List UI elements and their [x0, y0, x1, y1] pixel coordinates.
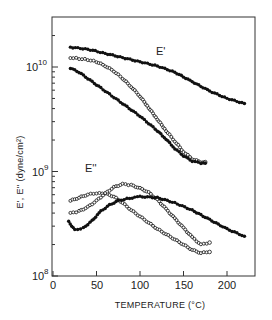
- x-tick-label-200: 200: [218, 279, 236, 291]
- data-series: [67, 45, 246, 254]
- x-tick-label-50: 50: [91, 279, 103, 291]
- y-axis-title: E', E'' (dyne/cm²): [15, 135, 25, 208]
- svg-text:8: 8: [44, 267, 49, 276]
- series-4-open-markers: [69, 182, 212, 246]
- y-tick-label-1e8: 10 8: [32, 267, 49, 282]
- x-tick-label-150: 150: [175, 279, 193, 291]
- x-tick-label-0: 0: [50, 279, 56, 291]
- plot-frame: [52, 17, 255, 276]
- svg-text:10: 10: [26, 61, 38, 73]
- svg-text:9: 9: [44, 163, 49, 172]
- x-axis-ticks: [53, 271, 227, 276]
- y-tick-label-1e10: 10 10: [26, 58, 47, 73]
- y-tick-label-1e9: 10 9: [32, 163, 49, 178]
- svg-text:10: 10: [32, 166, 44, 178]
- x-tick-label-100: 100: [131, 279, 149, 291]
- series-label-e-prime: E': [156, 45, 165, 57]
- dynamic-modulus-chart: 10 10 10 9 10 8 0 50 100 150 200 TEMPERA…: [0, 0, 272, 320]
- series-label-e-double-prime: E'': [85, 162, 97, 174]
- x-axis-title: TEMPERATURE (°C): [115, 300, 206, 310]
- y-axis-ticks: [52, 36, 58, 276]
- series-2-filled-markers: [69, 67, 207, 165]
- series-1-open-markers: [69, 56, 207, 164]
- svg-text:10: 10: [32, 270, 44, 282]
- svg-text:10: 10: [38, 58, 47, 67]
